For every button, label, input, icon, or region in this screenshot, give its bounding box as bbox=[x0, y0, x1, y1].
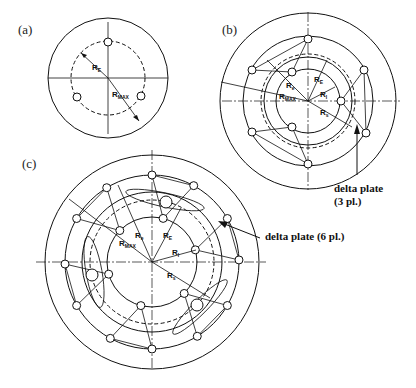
panel-c-rE-label: RE bbox=[163, 231, 173, 241]
panel-b-label: (b) bbox=[222, 22, 237, 37]
arrowhead-icon bbox=[218, 221, 228, 228]
panel-c-re-dimension bbox=[118, 185, 152, 262]
panel-a-rmax-label: RMAX bbox=[112, 90, 130, 100]
panel-c-bolt-hole bbox=[148, 171, 156, 179]
panel-c-bolt-hole bbox=[223, 215, 231, 223]
panel-b: (b) Re RE RI RMAX Rs delta pla bbox=[220, 12, 400, 208]
panel-c-rmax-label: RMAX bbox=[119, 239, 137, 249]
panel-b-bolt-hole bbox=[248, 66, 256, 74]
panel-a-re-label: RE bbox=[92, 63, 102, 73]
panel-b-callout-line1: delta plate bbox=[334, 182, 383, 194]
panel-c-bolt-hole bbox=[235, 256, 243, 264]
panel-b-rE-label: RE bbox=[314, 75, 324, 85]
panel-a-label: (a) bbox=[18, 22, 32, 37]
panel-c-bolt-hole bbox=[73, 215, 81, 223]
panel-c-bolt-hole bbox=[159, 214, 167, 222]
panel-b-bolt-hole bbox=[337, 97, 345, 105]
panel-c-label: (c) bbox=[22, 156, 36, 171]
panel-b-rs-dimension bbox=[308, 101, 352, 127]
panel-c-bolt-hole bbox=[73, 302, 81, 310]
panel-a: (a) RE RMAX bbox=[18, 18, 168, 138]
panel-c-re-label: Re bbox=[135, 231, 144, 241]
figure-canvas: (a) RE RMAX (b) bbox=[0, 0, 416, 388]
panel-c-bolt-hole bbox=[193, 332, 201, 340]
panel-c-bolt-hole bbox=[105, 270, 113, 278]
panel-b-rmax-label: RMAX bbox=[279, 92, 297, 102]
panel-c-bolt-hole bbox=[61, 260, 69, 268]
panel-c-bolt-hole bbox=[190, 182, 198, 190]
panel-b-bolt-hole bbox=[288, 123, 296, 131]
panel-c-ri-label: RI bbox=[172, 248, 180, 258]
panel-b-bolt-hole bbox=[304, 35, 312, 43]
panel-b-bolt-hole bbox=[288, 68, 296, 76]
panel-c-bolt-hole bbox=[223, 302, 231, 310]
panel-c-bolt-hole bbox=[103, 184, 111, 192]
panel-b-callout-line2: (3 pl.) bbox=[334, 195, 362, 208]
panel-b-bolt-hole bbox=[248, 128, 256, 136]
panel-c-slot-pin bbox=[160, 196, 172, 208]
panel-b-bolt-hole bbox=[362, 129, 370, 137]
panel-c-bolt-hole bbox=[180, 289, 188, 297]
panel-c-bolt-hole bbox=[116, 227, 124, 235]
panel-c-callout: delta plate (6 pl.) bbox=[265, 230, 345, 243]
delta-plate-outline bbox=[152, 175, 194, 218]
panel-c-bolt-hole bbox=[137, 302, 145, 310]
arrowhead-icon bbox=[354, 124, 360, 134]
panel-c-bolt-hole bbox=[106, 334, 114, 342]
panel-b-bolt-hole bbox=[360, 66, 368, 74]
delta-plate-outline bbox=[195, 219, 239, 260]
panel-a-bolt-hole bbox=[104, 38, 112, 46]
panel-b-rs-label: Rs bbox=[320, 108, 329, 118]
panel-b-bolt-hole bbox=[304, 160, 312, 168]
panel-a-bolt-hole bbox=[137, 92, 145, 100]
panel-c-slot-pin bbox=[191, 299, 203, 311]
panel-b-re-label: Re bbox=[286, 81, 295, 91]
arrowhead-icon bbox=[133, 115, 139, 121]
delta-plate-outline bbox=[110, 306, 152, 349]
panel-a-bolt-hole bbox=[73, 93, 81, 101]
panel-c-rs-label: Rs bbox=[167, 271, 176, 281]
panel-c: (c) Re RE RMAX RI Rs delta plate (6 pl.) bbox=[22, 150, 345, 370]
panel-c-slot-pin bbox=[86, 269, 98, 281]
panel-c-bolt-hole bbox=[148, 345, 156, 353]
